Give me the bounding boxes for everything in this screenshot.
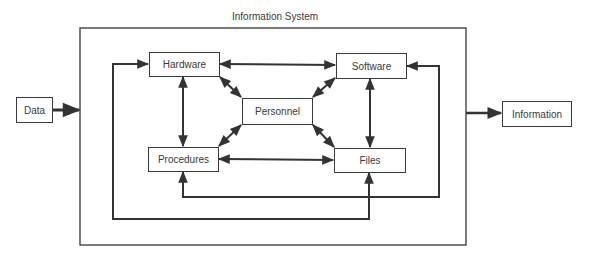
files-box: Files <box>334 148 406 173</box>
software-box: Software <box>336 53 407 79</box>
hardware-personnel-arrow <box>220 77 241 97</box>
system-title: Information System <box>232 11 318 22</box>
procedures-software-loop <box>183 66 439 197</box>
procedures-files-arrow <box>219 159 333 160</box>
procedures-box: Procedures <box>148 147 219 172</box>
hardware-files-loop <box>113 64 369 219</box>
data-box: Data <box>16 97 53 123</box>
procedures-personnel-arrow <box>219 125 241 146</box>
hardware-box: Hardware <box>149 52 220 77</box>
software-personnel-arrow <box>313 78 335 97</box>
files-personnel-arrow <box>313 125 334 147</box>
information-box: Information <box>502 101 572 127</box>
diagram-canvas <box>0 0 592 256</box>
hardware-software-arrow <box>220 64 335 65</box>
system-boundary <box>80 28 466 245</box>
personnel-box: Personnel <box>242 98 313 125</box>
